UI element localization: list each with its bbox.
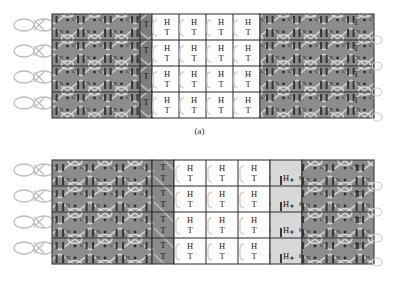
cell-label-h: H [191, 17, 197, 27]
tick-label-t: T [160, 251, 166, 261]
cell-label-h: H [283, 173, 289, 183]
yarn-loop [14, 97, 54, 109]
cell-label-t: T [191, 105, 197, 115]
cell-label-t: T [187, 199, 193, 209]
yarn-loop [14, 216, 54, 228]
yarn-loop-group-b [14, 164, 54, 254]
cell-label-t: T [187, 251, 193, 261]
cell-label-t: T [164, 27, 170, 37]
figure-a-svg: H T H T H T H T H T H T H T H T [0, 0, 399, 122]
yarn-loop [14, 242, 54, 254]
cell-label-t: T [187, 173, 193, 183]
cell-label-h: H [219, 241, 225, 251]
figure-a-caption: (a) [0, 126, 399, 136]
cell-label-h: H [218, 43, 224, 53]
cell-label-t: T [218, 27, 224, 37]
cell-label-h: H [219, 189, 225, 199]
tick-label-t: T [353, 43, 359, 53]
tick-label-t: T [160, 240, 166, 250]
yarn-loop [14, 19, 54, 31]
cell-label-t: T [251, 199, 257, 209]
cell-label-h: H [283, 199, 289, 209]
tick-label-t: T [143, 97, 149, 107]
yarn-loop [14, 164, 54, 176]
tick-label-t: T [353, 95, 359, 105]
cell-label-h: H [245, 17, 251, 27]
tick-label-t: T [353, 17, 359, 27]
cell-label-t: T [164, 105, 170, 115]
cell-label-h: H [245, 69, 251, 79]
cell-label-t: T [191, 53, 197, 63]
cell-label-t: T [251, 173, 257, 183]
cell-label-h: H [245, 43, 251, 53]
yarn-loop [14, 190, 54, 202]
cell-label-h: H [164, 95, 170, 105]
tick-label-t: T [355, 163, 361, 173]
cell-label-t: T [164, 53, 170, 63]
cell-label-h: H [191, 69, 197, 79]
yarn-loop [14, 71, 54, 83]
cell-label-t: T [219, 251, 225, 261]
cell-label-h: H [245, 95, 251, 105]
tick-label-t: T [160, 199, 166, 209]
cell-label-t: T [218, 53, 224, 63]
cell-label-t: T [245, 53, 251, 63]
tick-label-t: T [160, 225, 166, 235]
cell-label-t: T [245, 105, 251, 115]
figure-b-svg: H T H T H T H H T H T H T H H [0, 148, 399, 270]
cell-label-h: H [164, 43, 170, 53]
cell-label-t: T [219, 225, 225, 235]
tick-label-t: T [160, 188, 166, 198]
cell-label-t: T [219, 173, 225, 183]
cell-label-t: T [245, 79, 251, 89]
cell-label-t: T [218, 105, 224, 115]
tick-label-t: T [160, 173, 166, 183]
tick-label-t: T [160, 162, 166, 172]
cell-label-t: T [219, 199, 225, 209]
tick-label-t: T [355, 215, 361, 225]
cell-label-h: H [191, 95, 197, 105]
cell-label-t: T [218, 79, 224, 89]
cell-label-h: H [164, 69, 170, 79]
figure-a-diagram: H T H T H T H T H T H T H T H T [0, 0, 399, 118]
cell-label-h: H [219, 163, 225, 173]
cell-label-h: H [283, 251, 289, 261]
tick-label-t: T [143, 71, 149, 81]
cell-label-t: T [251, 251, 257, 261]
cell-label-h: H [251, 241, 257, 251]
cell-label-h: H [219, 215, 225, 225]
cell-label-h: H [218, 69, 224, 79]
cell-label-h: H [187, 163, 193, 173]
tick-label-t: T [143, 45, 149, 55]
cell-label-h: H [187, 241, 193, 251]
cell-label-t: T [187, 225, 193, 235]
yarn-loop-group-a [14, 19, 54, 109]
cell-label-t: T [164, 79, 170, 89]
cell-label-h: H [187, 215, 193, 225]
cell-label-h: H [218, 95, 224, 105]
tick-label-t: T [160, 214, 166, 224]
cell-label-t: T [191, 27, 197, 37]
cell-label-t: T [245, 27, 251, 37]
cell-label-h: H [187, 189, 193, 199]
cell-label-t: T [251, 225, 257, 235]
cell-label-h: H [251, 215, 257, 225]
tick-label-t: T [355, 241, 361, 251]
tick-label-t: T [353, 69, 359, 79]
figure-a: H T H T H T H T H T H T H T H T [0, 0, 399, 145]
cell-label-h: H [164, 17, 170, 27]
tick-label-t: T [143, 19, 149, 29]
figure-b-diagram: H T H T H T H H T H T H T H H [0, 148, 399, 266]
figure-page: H T H T H T H T H T H T H T H T [0, 0, 399, 300]
cell-label-t: T [191, 79, 197, 89]
cell-label-h: H [191, 43, 197, 53]
tick-label-t: T [355, 189, 361, 199]
cell-label-h: H [251, 189, 257, 199]
cell-label-h: H [283, 225, 289, 235]
cell-label-h: H [251, 163, 257, 173]
yarn-loop [14, 45, 54, 57]
cell-label-h: H [218, 17, 224, 27]
figure-b: H T H T H T H H T H T H T H H [0, 148, 399, 300]
